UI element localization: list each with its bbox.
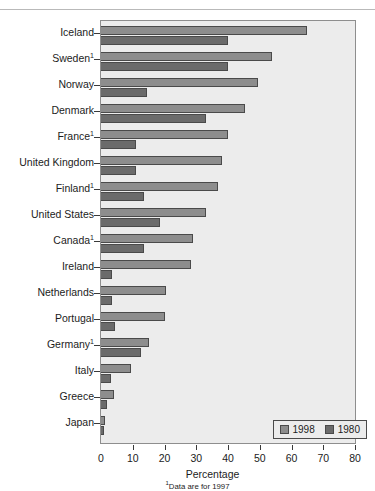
y-axis-label-norway: Norway xyxy=(0,79,94,90)
y-axis-tick xyxy=(94,59,100,60)
y-axis-tick xyxy=(94,33,100,34)
footnote-marker: 1 xyxy=(90,182,94,189)
y-axis-label-iceland: Iceland xyxy=(0,27,94,38)
bar-group xyxy=(101,153,355,179)
bar-group xyxy=(101,23,355,49)
bar-group xyxy=(101,335,355,361)
y-axis-label-japan: Japan xyxy=(0,417,94,428)
bar-iceland-1998 xyxy=(101,26,307,35)
footnote-marker: 1 xyxy=(90,234,94,241)
y-axis-label-italy: Italy xyxy=(0,365,94,376)
y-axis-tick xyxy=(94,397,100,398)
y-axis-tick xyxy=(94,137,100,138)
y-axis-label-france: France1 xyxy=(0,131,94,142)
y-axis-tick xyxy=(94,163,100,164)
x-axis-tick-label-60: 60 xyxy=(277,452,307,464)
top-divider-rule xyxy=(0,9,375,10)
y-axis-tick xyxy=(94,85,100,86)
bar-italy-1998 xyxy=(101,364,131,373)
footnote-marker: 1 xyxy=(90,52,94,59)
bar-netherlands-1998 xyxy=(101,286,166,295)
bar-norway-1980 xyxy=(101,88,147,97)
bar-group xyxy=(101,205,355,231)
bar-finland-1980 xyxy=(101,192,144,201)
bar-group xyxy=(101,283,355,309)
bar-united-states-1980 xyxy=(101,218,160,227)
x-axis-tick-label-30: 30 xyxy=(181,452,211,464)
bar-ireland-1998 xyxy=(101,260,191,269)
bar-canada-1998 xyxy=(101,234,193,243)
y-axis-label-germany: Germany1 xyxy=(0,339,94,350)
bar-italy-1980 xyxy=(101,374,111,383)
y-axis-tick xyxy=(94,293,100,294)
bar-denmark-1980 xyxy=(101,114,206,123)
legend-swatch-icon xyxy=(325,425,334,434)
bar-denmark-1998 xyxy=(101,104,245,113)
plot-area xyxy=(100,20,356,444)
y-axis-tick xyxy=(94,267,100,268)
x-axis-tick-label-70: 70 xyxy=(308,452,338,464)
bar-germany-1998 xyxy=(101,338,149,347)
x-axis-tick-label-50: 50 xyxy=(245,452,275,464)
legend-label: 1980 xyxy=(338,424,360,435)
y-axis-label-greece: Greece xyxy=(0,391,94,402)
bar-group xyxy=(101,361,355,387)
y-axis-label-canada: Canada1 xyxy=(0,235,94,246)
chart-legend: 19981980 xyxy=(273,420,368,439)
chart-figure: IcelandSweden1NorwayDenmarkFrance1United… xyxy=(0,0,375,491)
bar-group xyxy=(101,231,355,257)
bar-france-1998 xyxy=(101,130,228,139)
legend-label: 1998 xyxy=(293,424,315,435)
x-axis-tick-30 xyxy=(196,445,197,450)
bar-united-states-1998 xyxy=(101,208,206,217)
bar-iceland-1980 xyxy=(101,36,228,45)
y-axis-label-ireland: Ireland xyxy=(0,261,94,272)
y-axis-label-united-kingdom: United Kingdom xyxy=(0,157,94,168)
bars-container xyxy=(101,21,355,443)
bar-netherlands-1980 xyxy=(101,296,112,305)
bar-group xyxy=(101,309,355,335)
x-axis-tick-label-80: 80 xyxy=(340,452,370,464)
bar-japan-1998 xyxy=(101,416,105,425)
legend-entry-1980[interactable]: 1980 xyxy=(325,424,360,435)
y-axis-tick xyxy=(94,371,100,372)
y-axis-label-finland: Finland1 xyxy=(0,183,94,194)
bar-germany-1980 xyxy=(101,348,141,357)
x-axis-title: Percentage xyxy=(0,468,375,480)
y-axis-label-united-states: United States xyxy=(0,209,94,220)
y-axis-tick xyxy=(94,189,100,190)
bar-group xyxy=(101,179,355,205)
bar-greece-1980 xyxy=(101,400,107,409)
bar-ireland-1980 xyxy=(101,270,112,279)
x-axis-tick-label-0: 0 xyxy=(86,452,116,464)
bar-united-kingdom-1980 xyxy=(101,166,136,175)
bar-group xyxy=(101,101,355,127)
y-axis-tick xyxy=(94,319,100,320)
x-axis-tick-60 xyxy=(292,445,293,450)
y-axis-tick xyxy=(94,215,100,216)
x-axis-tick-50 xyxy=(260,445,261,450)
bar-japan-1980 xyxy=(101,426,104,435)
footnote-marker: 1 xyxy=(90,130,94,137)
bar-france-1980 xyxy=(101,140,136,149)
x-axis-tick-70 xyxy=(323,445,324,450)
bar-finland-1998 xyxy=(101,182,218,191)
bar-group xyxy=(101,387,355,413)
y-axis-label-denmark: Denmark xyxy=(0,105,94,116)
x-axis-tick-80 xyxy=(355,445,356,450)
y-axis-label-netherlands: Netherlands xyxy=(0,287,94,298)
bar-sweden-1998 xyxy=(101,52,272,61)
legend-entry-1998[interactable]: 1998 xyxy=(280,424,315,435)
bar-canada-1980 xyxy=(101,244,144,253)
bar-group xyxy=(101,127,355,153)
y-axis-label-portugal: Portugal xyxy=(0,313,94,324)
y-axis-tick xyxy=(94,345,100,346)
y-axis-tick xyxy=(94,241,100,242)
bar-norway-1998 xyxy=(101,78,258,87)
bar-group xyxy=(101,257,355,283)
bar-portugal-1998 xyxy=(101,312,165,321)
bar-group xyxy=(101,49,355,75)
bar-sweden-1980 xyxy=(101,62,228,71)
x-axis-tick-20 xyxy=(165,445,166,450)
bar-group xyxy=(101,75,355,101)
